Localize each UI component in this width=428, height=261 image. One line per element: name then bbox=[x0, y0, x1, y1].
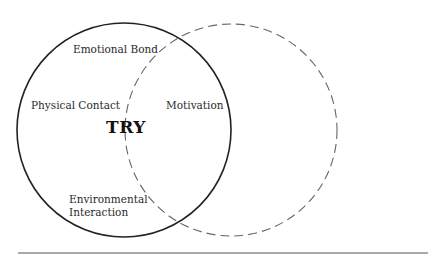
label-motivation: Motivation bbox=[166, 99, 224, 112]
label-try: TRY bbox=[106, 117, 146, 137]
label-emotional-bond: Emotional Bond bbox=[73, 43, 158, 56]
label-environmental-interaction-line2: Interaction bbox=[69, 206, 128, 219]
venn-diagram bbox=[0, 0, 428, 261]
label-environmental-interaction-line1: Environmental bbox=[69, 193, 148, 206]
label-physical-contact: Physical Contact bbox=[31, 99, 120, 112]
